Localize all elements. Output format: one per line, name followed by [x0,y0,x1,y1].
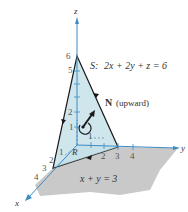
y-tick-4: 4 [130,151,135,161]
surface-equation: 2x + 2y + z = 6 [104,60,167,71]
x-tick-4: 4 [34,172,39,182]
x-tick-1: 1 [59,147,64,157]
z-tick-5: 5 [68,65,73,75]
normal-label-direction: (upward) [116,98,149,108]
y-tick-3: 3 [115,151,120,161]
z-tick-6: 6 [66,51,71,61]
x-axis-label: x [14,198,19,208]
region-equation: x + y = 3 [79,173,117,184]
surface-label: S: [90,60,98,71]
z-axis-arrow-icon [75,17,79,24]
normal-label: N [105,97,113,108]
surface-diagram: z y x S: 2x + 2y + z = 6 N (upward) R x … [0,0,188,212]
y-axis-label: y [180,143,185,153]
x-tick-3: 3 [42,163,47,173]
y-tick-1: 1 [88,131,93,141]
region-label: R [71,147,78,157]
z-tick-2: 2 [68,107,73,117]
x-tick-2: 2 [49,155,54,165]
z-tick-1: 1 [69,122,74,132]
y-tick-2: 2 [101,151,106,161]
z-axis-label: z [73,6,78,16]
